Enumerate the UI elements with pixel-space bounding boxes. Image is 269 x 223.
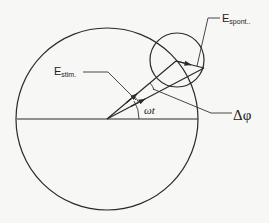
omega-t-label: ωt — [144, 104, 156, 116]
e-stim-vector — [107, 61, 176, 119]
e-spont-label: Espont.. — [222, 12, 250, 26]
resultant-arrowhead — [131, 99, 145, 106]
e-stim-label: Estim. — [54, 65, 76, 78]
e-stim-leader — [83, 72, 136, 100]
phasor-diagram: Estim. Espont.. ωt Δφ — [0, 0, 269, 223]
delta-phi-label: Δφ — [233, 107, 252, 123]
e-spont-leader — [197, 18, 220, 66]
delta-phi-leader — [153, 89, 232, 113]
